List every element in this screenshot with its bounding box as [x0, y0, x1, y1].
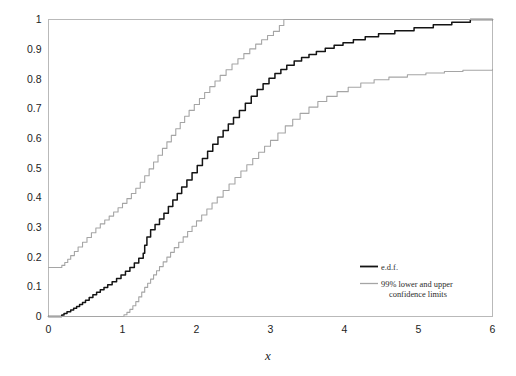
x-tick-label: 2: [194, 323, 200, 335]
chart-canvas: 00.10.20.30.40.50.60.70.80.91 0123456 x …: [0, 0, 516, 376]
y-tick-label: 0.1: [27, 280, 42, 292]
x-tick-label: 0: [46, 323, 52, 335]
chart-background: [0, 0, 516, 376]
y-tick-label: 0.5: [27, 162, 42, 174]
x-axis-title: x: [264, 348, 271, 363]
legend-label-confidence-line2: confidence limits: [389, 290, 447, 299]
y-tick-label: 0.7: [27, 102, 42, 114]
edf-chart: 00.10.20.30.40.50.60.70.80.91 0123456 x …: [0, 0, 516, 376]
x-tick-label: 5: [416, 323, 422, 335]
y-tick-label: 0.8: [27, 73, 42, 85]
y-tick-label: 0.2: [27, 251, 42, 263]
y-tick-label: 0.9: [27, 43, 42, 55]
y-tick-label: 0.4: [27, 191, 42, 203]
y-tick-label: 1: [36, 13, 42, 25]
y-tick-label: 0.6: [27, 132, 42, 144]
legend-label-edf: e.d.f.: [381, 263, 398, 272]
x-tick-label: 1: [120, 323, 126, 335]
x-tick-label: 4: [342, 323, 348, 335]
y-tick-label: 0.3: [27, 221, 42, 233]
x-tick-label: 3: [268, 323, 274, 335]
y-tick-label: 0: [36, 310, 42, 322]
x-tick-label: 6: [490, 323, 496, 335]
legend-label-confidence-line1: 99% lower and upper: [381, 280, 453, 289]
